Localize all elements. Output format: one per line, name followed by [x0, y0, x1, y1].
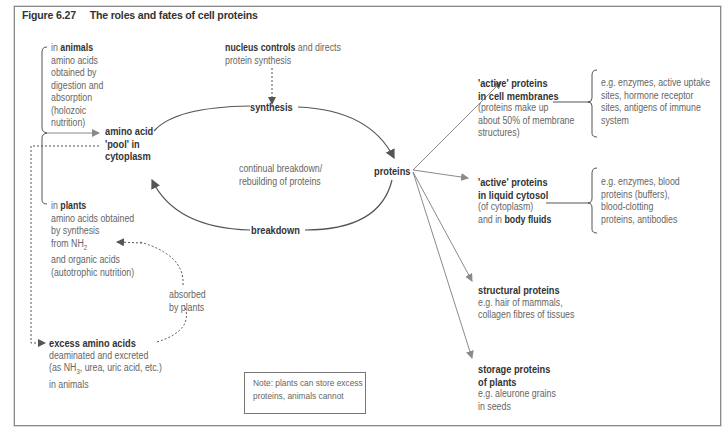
- excess-amino-acids-label: excess amino acids: [49, 337, 162, 350]
- fate-membrane-examples: e.g. enzymes, active uptake sites, hormo…: [601, 77, 710, 127]
- amino-acid-pool-label: amino acid 'pool' in cytoplasm: [105, 125, 153, 163]
- cycle-center-text: continual breakdown/ rebuilding of prote…: [239, 163, 322, 188]
- fate-cytosol-examples: e.g. enzymes, blood proteins (buffers), …: [601, 176, 680, 226]
- excess-amino-acids-text: excess amino acids deaminated and excret…: [49, 337, 162, 391]
- animals-plants-brace: [42, 47, 47, 204]
- proteins-label: proteins: [374, 165, 410, 178]
- note-box: Note: plants can store excess proteins, …: [244, 372, 366, 414]
- plants-label: plants: [60, 200, 86, 211]
- fate-storage-proteins: storage proteins of plants e.g. aleurone…: [478, 363, 556, 413]
- animals-source-text: in animals amino acids obtained by diges…: [51, 42, 103, 130]
- fate-structural-proteins: structural proteins e.g. hair of mammals…: [478, 284, 574, 322]
- fate-cytosol-proteins: 'active' proteins in liquid cytosol (of …: [478, 176, 551, 226]
- breakdown-label: breakdown: [251, 224, 300, 237]
- body-fluids-label: body fluids: [504, 214, 551, 225]
- absorbed-by-plants-label: absorbed by plants: [169, 289, 206, 314]
- plants-source-text: in plants amino acids obtained by synthe…: [51, 200, 134, 279]
- fate-membrane-proteins: 'active' proteins in cell membranes (pro…: [478, 77, 574, 140]
- nucleus-controls-label: nucleus controls: [225, 42, 295, 53]
- synthesis-label: synthesis: [250, 101, 293, 114]
- nucleus-controls-text: nucleus controls and directs protein syn…: [225, 42, 341, 67]
- animals-label: animals: [60, 42, 93, 53]
